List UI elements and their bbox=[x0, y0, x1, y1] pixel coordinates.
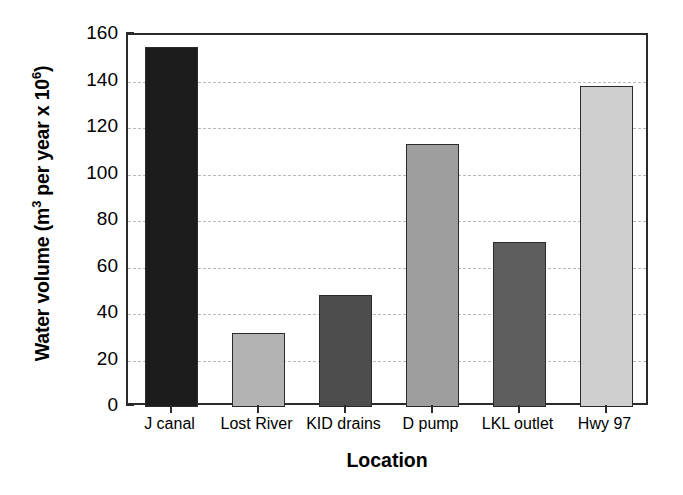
bar bbox=[406, 144, 458, 407]
x-axis-tick-label-group: J canalLost RiverKID drainsD pumpLKL out… bbox=[126, 415, 648, 441]
y-axis-title-lead: Water volume (m bbox=[31, 208, 53, 361]
y-axis-title-sup-6: 6 bbox=[29, 72, 44, 79]
x-axis-tick-label: KID drains bbox=[306, 415, 381, 433]
x-axis-tick-mark bbox=[344, 405, 346, 413]
y-axis-title: Water volume (m3 per year x 106) bbox=[31, 24, 54, 404]
y-axis-title-mid: per year x 10 bbox=[31, 79, 53, 201]
x-axis-title: Location bbox=[126, 449, 648, 472]
bar bbox=[319, 295, 371, 407]
x-axis-tick-label: Lost River bbox=[220, 415, 292, 433]
y-axis-tick-label: 0 bbox=[62, 394, 118, 416]
x-axis-tick-mark bbox=[518, 405, 520, 413]
x-axis-tick-label: LKL outlet bbox=[482, 415, 553, 433]
bar bbox=[232, 333, 284, 407]
bar-chart-figure: Water volume (m3 per year x 106) 0204060… bbox=[0, 0, 683, 495]
y-axis-tick-label: 160 bbox=[62, 22, 118, 44]
y-axis-tick-label: 100 bbox=[62, 162, 118, 184]
x-axis-tick-label: Hwy 97 bbox=[578, 415, 631, 433]
y-axis-tick-label: 140 bbox=[62, 69, 118, 91]
y-axis-title-sup-3: 3 bbox=[29, 201, 44, 208]
y-axis-tick-label: 40 bbox=[62, 301, 118, 323]
plot-area bbox=[126, 33, 648, 405]
y-axis-tick-label: 80 bbox=[62, 208, 118, 230]
bar-series-group bbox=[128, 35, 650, 407]
bar bbox=[580, 86, 632, 407]
x-axis-tick-label: D pump bbox=[402, 415, 458, 433]
x-axis-tick-mark bbox=[257, 405, 259, 413]
bar bbox=[493, 242, 545, 407]
bar bbox=[145, 47, 197, 407]
y-axis-tick-label: 120 bbox=[62, 115, 118, 137]
x-axis-tick-label: J canal bbox=[144, 415, 195, 433]
y-axis-tick-label: 20 bbox=[62, 348, 118, 370]
y-axis-tick-label: 60 bbox=[62, 255, 118, 277]
x-axis-tick-mark bbox=[170, 405, 172, 413]
x-axis-tick-mark bbox=[605, 405, 607, 413]
y-axis-title-tail: ) bbox=[31, 66, 53, 72]
x-axis-tick-mark bbox=[431, 405, 433, 413]
y-axis-tick-label-group: 020406080100120140160 bbox=[60, 33, 118, 405]
x-axis-tick-mark-group bbox=[126, 405, 648, 415]
